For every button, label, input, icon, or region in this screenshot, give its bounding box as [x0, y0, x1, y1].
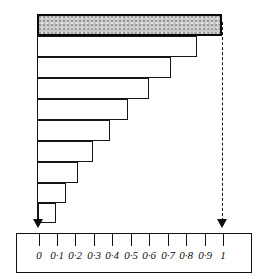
arrowhead-zero — [33, 219, 43, 228]
tick-label: 1 — [220, 249, 226, 261]
total-bar — [37, 14, 222, 36]
tick-label: 0·4 — [105, 249, 119, 261]
tick-label: 0·5 — [124, 249, 138, 261]
bar-1 — [37, 36, 197, 57]
tick-label: 0·9 — [198, 249, 212, 261]
bar-4 — [37, 99, 128, 120]
tick-label: 0·3 — [87, 249, 101, 261]
number-line: 0 0·1 0·2 0·3 0·4 0·5 0·6 0·7 0·8 0·9 1 — [16, 233, 252, 273]
tick-mark — [131, 234, 132, 246]
leader-one — [222, 22, 223, 221]
arrowhead-one — [217, 219, 227, 228]
tick-mark — [168, 234, 169, 246]
tick-mark — [205, 234, 206, 246]
tick-label: 0·1 — [50, 249, 64, 261]
tick-label: 0·6 — [142, 249, 156, 261]
tick-label: 0 — [36, 249, 42, 261]
tick-label: 0·2 — [68, 249, 82, 261]
tick-label: 0·8 — [179, 249, 193, 261]
tick-mark — [112, 234, 113, 246]
tick-mark — [57, 234, 58, 246]
tick-mark — [186, 234, 187, 246]
bar-6 — [37, 141, 93, 162]
tick-mark — [94, 234, 95, 246]
bar-8 — [37, 183, 66, 203]
tick-mark — [223, 234, 224, 246]
tick-mark — [75, 234, 76, 246]
bar-2 — [37, 57, 171, 78]
bar-5 — [37, 120, 110, 141]
tick-label: 0·7 — [161, 249, 175, 261]
bar-7 — [37, 162, 78, 183]
tick-mark — [39, 234, 40, 246]
geometric-series-figure: 0 0·1 0·2 0·3 0·4 0·5 0·6 0·7 0·8 0·9 1 — [0, 0, 270, 279]
tick-mark — [149, 234, 150, 246]
bar-3 — [37, 78, 149, 99]
